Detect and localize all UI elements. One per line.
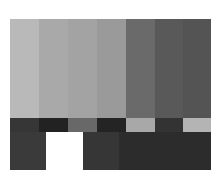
bar-5 [126, 19, 155, 118]
strip-7 [183, 118, 211, 132]
bar-3 [68, 19, 97, 118]
strip-5 [126, 118, 155, 132]
black-block [119, 132, 211, 170]
middle-strip [10, 118, 211, 132]
top-bars [10, 19, 211, 118]
pluge-dark-2 [83, 132, 119, 170]
test-pattern [10, 19, 211, 170]
strip-1 [10, 118, 39, 132]
bar-6 [155, 19, 183, 118]
strip-6 [155, 118, 183, 132]
strip-4 [97, 118, 126, 132]
strip-3 [68, 118, 97, 132]
bar-1 [10, 19, 39, 118]
strip-2 [39, 118, 68, 132]
pluge-dark-1 [10, 132, 46, 170]
white-block [46, 132, 83, 170]
bar-7 [183, 19, 211, 118]
bar-4 [97, 19, 126, 118]
bottom-blocks [10, 132, 211, 170]
bar-2 [39, 19, 68, 118]
